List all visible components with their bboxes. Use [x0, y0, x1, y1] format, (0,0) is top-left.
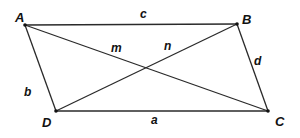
side-label-a: a — [151, 113, 158, 127]
vertex-label-C: C — [275, 114, 285, 129]
parallelogram-diagram: A B C D c d a b m n — [0, 0, 300, 138]
diagonal-label-m: m — [111, 41, 122, 55]
vertex-label-B: B — [242, 12, 251, 27]
vertex-D-point — [54, 109, 58, 113]
side-AB — [25, 24, 237, 25]
vertex-B-point — [235, 22, 239, 26]
vertex-C-point — [266, 109, 270, 113]
diagonal-BD — [56, 24, 237, 111]
side-label-c: c — [140, 7, 147, 21]
vertex-label-D: D — [42, 115, 52, 130]
side-label-d: d — [254, 54, 262, 68]
diagonal-label-n: n — [164, 39, 171, 53]
side-label-b: b — [24, 85, 31, 99]
side-BC — [237, 24, 268, 111]
vertex-label-A: A — [14, 10, 24, 25]
